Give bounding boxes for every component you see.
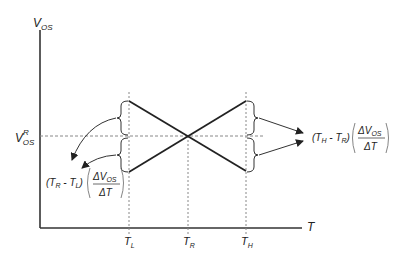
left-upper-brace: [117, 101, 128, 135]
tick-tl: TL: [124, 235, 135, 249]
left-upper-arrow: [72, 118, 116, 160]
svg-text:ΔVOS: ΔVOS: [92, 171, 117, 183]
x-axis-label: T: [307, 220, 316, 234]
svg-text:ΔVOS: ΔVOS: [357, 125, 382, 137]
svg-text:ΔT: ΔT: [98, 187, 113, 198]
tick-th: TH: [241, 235, 254, 249]
right-upper-arrow: [259, 118, 303, 133]
left-lower-brace: [117, 138, 128, 172]
y-axis-label: VOS: [33, 16, 53, 32]
right-lower-brace: [247, 138, 258, 172]
right-upper-brace: [247, 101, 258, 135]
right-lower-arrow: [259, 141, 303, 155]
tick-tr: TR: [183, 235, 195, 249]
vos-r-label: VROS: [15, 128, 35, 147]
svg-text:(TR - TL): (TR - TL): [46, 177, 83, 189]
left-lower-arrow: [82, 155, 116, 168]
right-expression: (TH - TR) ΔVOS ΔT: [312, 123, 389, 153]
vos-temperature-diagram: VOS VROS T TL TR TH (TR - TL) ΔVOS ΔT (T…: [0, 0, 395, 255]
left-expression: (TR - TL) ΔVOS ΔT: [46, 168, 124, 198]
svg-text:(TH - TR): (TH - TR): [312, 132, 350, 144]
svg-text:ΔT: ΔT: [363, 141, 378, 152]
